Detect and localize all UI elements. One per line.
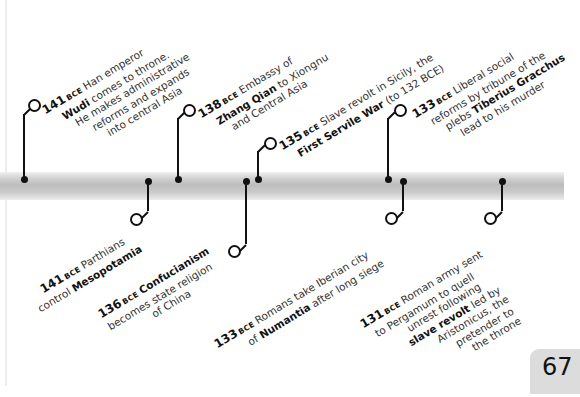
event-ring-icon (264, 137, 277, 150)
page-number: 67 (542, 353, 573, 381)
timeline-dot-icon (21, 176, 28, 183)
timeline-bar (0, 172, 564, 200)
event-141-wudi-label: 141BCEHan emperor Wudi comes to throne. … (40, 27, 205, 161)
event-ring-icon (130, 213, 143, 226)
timeline-dot-icon (385, 176, 392, 183)
timeline-dot-icon (255, 176, 262, 183)
event-ring-icon (484, 212, 497, 225)
event-ring-icon (385, 212, 398, 225)
page-number-tab: 67 (530, 349, 580, 394)
event-133-gracchus-label: 133BCELiberal social reforms by tribune … (410, 28, 574, 155)
event-ring-icon (394, 104, 407, 117)
event-131-pergamum-label: 131BCERoman army sent to Pergamum to que… (358, 248, 524, 397)
event-133-numantia-label: 133BCERomans take Iberian city of Numant… (212, 244, 386, 363)
event-ring-icon (228, 245, 241, 258)
timeline-dot-icon (175, 176, 182, 183)
event-ring-icon (183, 104, 196, 117)
